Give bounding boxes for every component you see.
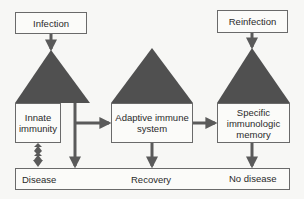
outcome-no-disease: No disease (229, 173, 277, 184)
adaptive-immune-system-box: Adaptive immune system (111, 103, 193, 143)
outcome-recovery: Recovery (131, 174, 171, 185)
triangle-adaptive (111, 48, 193, 103)
infection-label: Infection (33, 18, 69, 29)
outcomes-bar: Disease Recovery No disease (15, 168, 290, 190)
specific-immunologic-memory-box: Specific immunologic memory (217, 103, 290, 143)
specific-immunologic-memory-label: Specific immunologic memory (227, 107, 280, 140)
triangle-memory (217, 48, 290, 103)
reinfection-box: Reinfection (217, 10, 288, 33)
outcome-disease: Disease (22, 174, 56, 185)
infection-box: Infection (15, 12, 87, 34)
arrow-innate-disease-double (33, 143, 43, 167)
innate-immunity-box: Innate immunity (15, 103, 61, 143)
reinfection-label: Reinfection (229, 16, 277, 27)
innate-immunity-label: Innate immunity (19, 112, 57, 134)
adaptive-immune-system-label: Adaptive immune system (115, 112, 188, 134)
triangle-innate (15, 50, 90, 103)
